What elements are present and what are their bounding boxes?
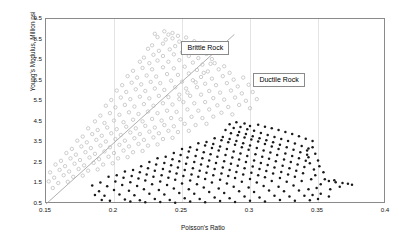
data-point — [54, 163, 57, 166]
data-point — [212, 143, 215, 146]
y-tick-label: 9.5 — [2, 15, 42, 21]
data-point — [219, 178, 222, 181]
data-point — [122, 176, 125, 179]
data-point — [142, 102, 145, 105]
data-point — [178, 192, 181, 195]
data-point — [238, 190, 241, 193]
data-point — [294, 142, 297, 145]
data-point — [57, 181, 60, 184]
data-point — [201, 157, 204, 160]
data-point — [81, 174, 84, 177]
data-point — [284, 131, 287, 134]
data-point — [260, 162, 263, 165]
data-point — [279, 177, 282, 180]
data-point — [314, 174, 317, 177]
data-point — [107, 155, 110, 158]
data-point — [82, 164, 85, 167]
data-point — [80, 145, 83, 148]
data-point — [300, 180, 303, 183]
data-point — [328, 180, 331, 183]
data-point — [175, 110, 178, 113]
data-point — [178, 160, 181, 163]
data-point — [307, 156, 310, 159]
data-point — [268, 189, 271, 192]
data-point — [206, 70, 209, 73]
data-point — [199, 93, 202, 96]
data-point — [129, 181, 132, 184]
data-point — [124, 170, 127, 173]
data-point — [85, 141, 88, 144]
data-point — [204, 178, 207, 181]
data-point — [196, 148, 199, 151]
data-point — [152, 53, 155, 56]
data-point — [163, 162, 166, 165]
data-point — [156, 59, 159, 62]
data-point — [112, 119, 115, 122]
data-point — [243, 167, 246, 170]
data-point — [143, 188, 146, 191]
data-point — [194, 155, 197, 158]
data-point — [253, 130, 256, 133]
data-point — [77, 167, 80, 170]
annotation-brittle-rock: Brittle Rock — [181, 41, 229, 55]
data-point — [156, 143, 159, 146]
data-point — [277, 148, 280, 151]
data-point — [173, 152, 176, 155]
data-point — [264, 143, 267, 146]
data-point — [153, 126, 156, 129]
data-point — [194, 81, 197, 84]
data-point — [66, 180, 69, 183]
data-point — [130, 81, 133, 84]
data-point — [73, 162, 76, 165]
data-point — [347, 183, 350, 186]
data-point — [309, 162, 312, 165]
data-point — [219, 145, 222, 148]
data-point — [224, 129, 227, 132]
data-point — [196, 183, 199, 186]
data-point — [216, 155, 219, 158]
data-point — [271, 145, 274, 148]
data-point — [208, 159, 211, 162]
data-point — [204, 144, 207, 147]
data-point — [171, 37, 174, 40]
data-point — [131, 69, 134, 72]
data-point — [235, 121, 238, 124]
data-point — [113, 189, 116, 192]
data-point — [188, 188, 191, 191]
data-point — [228, 197, 231, 200]
data-point — [159, 201, 162, 204]
data-point — [167, 60, 170, 63]
data-point — [84, 151, 87, 154]
data-point — [99, 114, 102, 117]
data-point — [165, 72, 168, 75]
data-point — [319, 192, 322, 195]
data-point — [92, 161, 95, 164]
data-point — [208, 89, 211, 92]
data-point — [125, 125, 128, 128]
data-point — [121, 184, 124, 187]
data-point — [154, 198, 157, 201]
data-point — [250, 172, 253, 175]
data-point — [265, 139, 268, 142]
data-point — [186, 156, 189, 159]
data-point — [96, 128, 99, 131]
data-point — [171, 136, 174, 139]
data-point — [171, 31, 174, 34]
data-point — [150, 117, 153, 120]
data-point — [175, 172, 178, 175]
data-point — [298, 189, 301, 192]
x-tick-label: 0.35 — [297, 207, 337, 213]
data-point — [52, 176, 55, 179]
data-point — [197, 109, 200, 112]
data-point — [182, 175, 185, 178]
data-point — [238, 131, 241, 134]
data-point — [333, 179, 336, 182]
data-point — [176, 73, 179, 76]
data-point — [47, 180, 50, 183]
data-point — [328, 195, 331, 198]
data-point — [273, 166, 276, 169]
data-point — [266, 134, 269, 137]
data-point — [212, 115, 215, 118]
data-point — [106, 126, 109, 129]
data-point — [311, 194, 314, 197]
